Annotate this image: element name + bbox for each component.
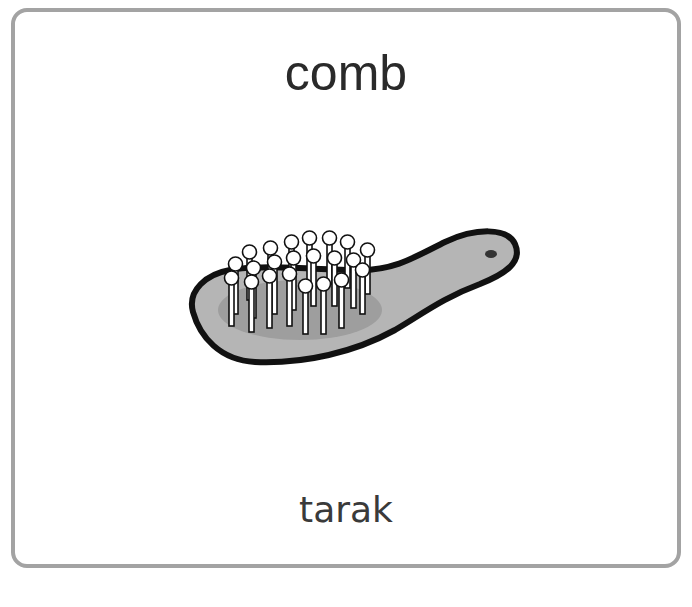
card-subtitle: tarak bbox=[15, 492, 677, 528]
card-title: comb bbox=[15, 48, 677, 98]
hairbrush-icon bbox=[165, 217, 535, 387]
picture-card: comb bbox=[11, 8, 681, 568]
